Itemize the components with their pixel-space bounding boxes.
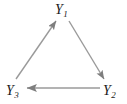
edge-y1-to-y2 xyxy=(69,21,104,79)
node-y3-subscript: 3 xyxy=(14,90,19,100)
node-y2-subscript: 2 xyxy=(111,90,116,100)
node-y1-subscript: 1 xyxy=(63,9,68,19)
node-label-y1: Y1 xyxy=(55,3,67,17)
node-label-y3: Y3 xyxy=(6,84,18,98)
edge-y3-to-y1 xyxy=(16,21,56,79)
node-y2-base: Y xyxy=(103,83,111,98)
node-y3-base: Y xyxy=(6,83,14,98)
node-y1-base: Y xyxy=(55,2,63,17)
cycle-diagram: Y1 Y3 Y2 xyxy=(0,0,127,104)
node-label-y2: Y2 xyxy=(103,84,115,98)
